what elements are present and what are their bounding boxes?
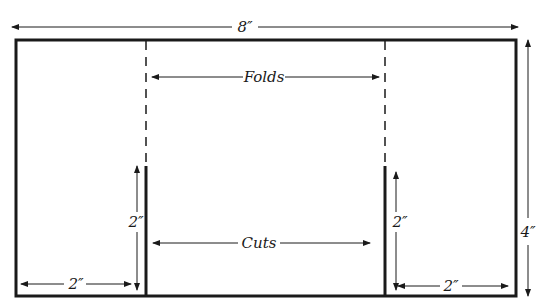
left-cut-height-dimension: 2″: [127, 166, 144, 290]
folds-dimension: Folds: [152, 68, 379, 86]
height-label: 4″: [519, 223, 536, 241]
folds-label: Folds: [243, 68, 285, 86]
cuts-label: Cuts: [242, 234, 277, 252]
right-pocket-width-dimension: 2″: [398, 277, 508, 295]
right-cut-height-label: 2″: [391, 213, 408, 231]
folder-template-diagram: 8″ 4″ Folds Cuts 2″ 2″ 2″ 2″: [0, 0, 547, 307]
right-pocket-width-label: 2″: [442, 277, 459, 295]
width-label: 8″: [237, 18, 253, 36]
cuts-dimension: Cuts: [153, 234, 370, 252]
height-dimension: 4″: [519, 40, 536, 296]
width-dimension: 8″: [12, 18, 518, 36]
left-pocket-width-dimension: 2″: [21, 275, 131, 293]
left-cut-height-label: 2″: [127, 213, 144, 231]
right-cut-height-dimension: 2″: [391, 172, 408, 290]
left-pocket-width-label: 2″: [67, 275, 84, 293]
